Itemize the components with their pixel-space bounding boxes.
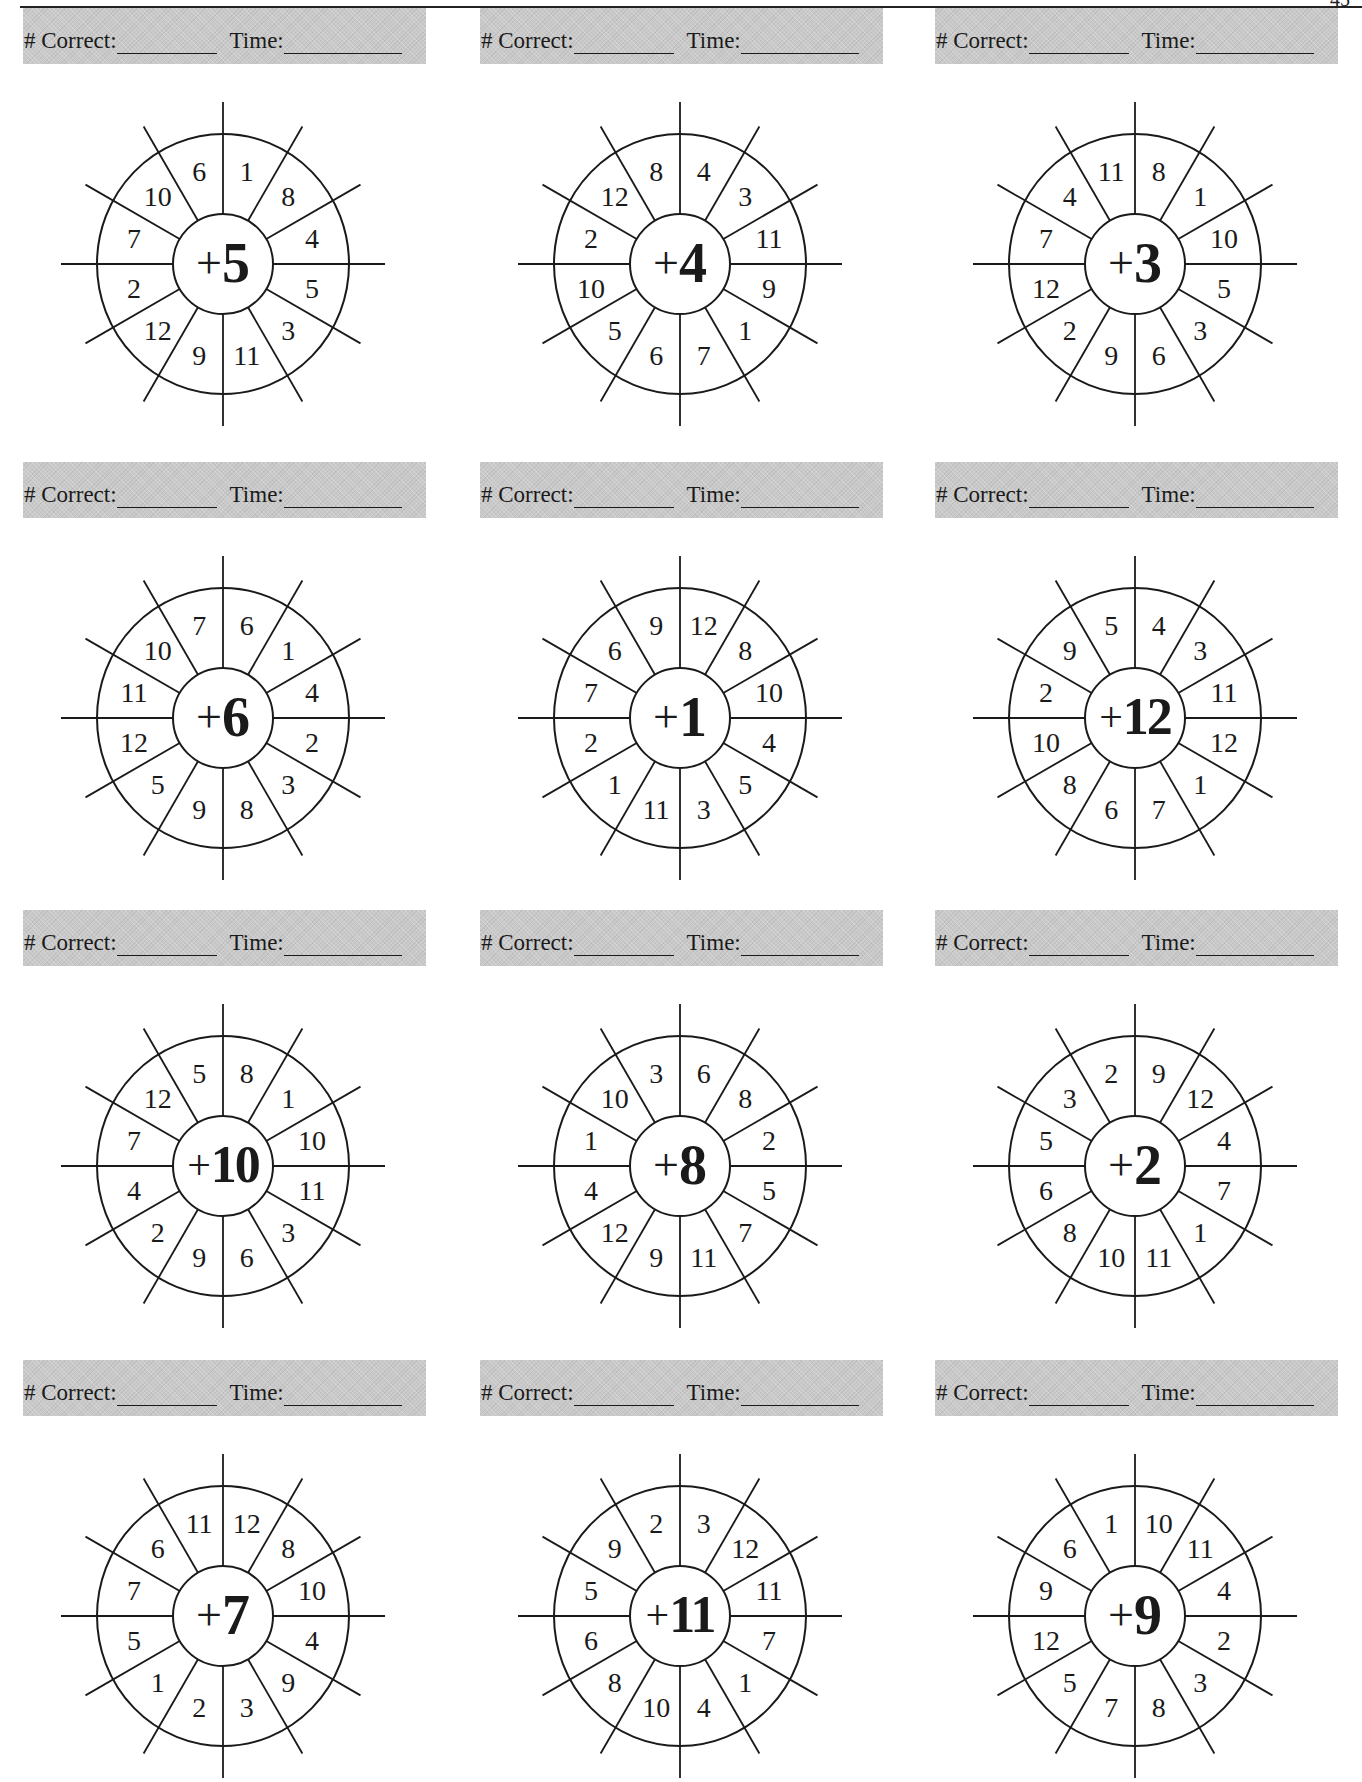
addition-wheel-card: # Correct:Time:184531191227106+5 bbox=[18, 8, 428, 458]
time-blank[interactable] bbox=[741, 935, 859, 956]
wheel-segment-number: 2 bbox=[584, 225, 598, 253]
wheel-segment-number: 9 bbox=[1104, 342, 1118, 370]
plus-sign: + bbox=[653, 240, 679, 286]
time-blank[interactable] bbox=[284, 935, 402, 956]
time-blank[interactable] bbox=[741, 1385, 859, 1406]
wheel-segment-number: 6 bbox=[608, 637, 622, 665]
wheel-segment-number: 11 bbox=[756, 1577, 783, 1605]
wheel-segment-number: 4 bbox=[1217, 1127, 1231, 1155]
wheel-segment-number: 10 bbox=[1097, 1244, 1125, 1272]
correct-count-blank[interactable] bbox=[117, 1385, 217, 1406]
addition-wheel-card: # Correct:Time:431112176810295+12 bbox=[930, 462, 1340, 912]
time-label: Time: bbox=[1142, 1380, 1196, 1406]
time-blank[interactable] bbox=[284, 1385, 402, 1406]
addition-wheel-card: # Correct:Time:431191765102128+4 bbox=[475, 8, 885, 458]
addend-value: 11 bbox=[669, 1589, 714, 1641]
time-blank[interactable] bbox=[1196, 33, 1314, 54]
wheel-segment-number: 1 bbox=[1193, 1219, 1207, 1247]
wheel-segment-number: 7 bbox=[127, 1577, 141, 1605]
plus-sign: + bbox=[1108, 240, 1134, 286]
wheel-center-addend: +3 bbox=[1108, 235, 1162, 291]
wheel-segment-number: 11 bbox=[1145, 1244, 1172, 1272]
wheel-segment-number: 8 bbox=[240, 796, 254, 824]
correct-count-blank[interactable] bbox=[574, 1385, 674, 1406]
wheel-center-addend: +4 bbox=[653, 235, 707, 291]
wheel-segment-number: 7 bbox=[762, 1627, 776, 1655]
correct-count-blank[interactable] bbox=[117, 487, 217, 508]
wheel-segment-number: 6 bbox=[1063, 1535, 1077, 1563]
wheel-segment-number: 7 bbox=[1039, 225, 1053, 253]
wheel-segment-number: 5 bbox=[608, 317, 622, 345]
wheel-segment-number: 6 bbox=[649, 342, 663, 370]
addition-wheel: 184531191227106+5 bbox=[18, 64, 428, 458]
wheel-segment-number: 3 bbox=[1193, 317, 1207, 345]
time-blank[interactable] bbox=[1196, 935, 1314, 956]
wheel-segment-number: 12 bbox=[601, 183, 629, 211]
addition-wheel: 312117141086592+11 bbox=[475, 1416, 885, 1782]
time-label: Time: bbox=[230, 1380, 284, 1406]
time-label: Time: bbox=[230, 482, 284, 508]
wheel-segment-number: 11 bbox=[1211, 679, 1238, 707]
wheel-segment-number: 8 bbox=[1063, 1219, 1077, 1247]
time-label: Time: bbox=[1142, 930, 1196, 956]
score-header-bar: # Correct:Time: bbox=[935, 462, 1338, 518]
wheel-segment-number: 9 bbox=[608, 1535, 622, 1563]
wheel-segment-number: 7 bbox=[127, 1127, 141, 1155]
wheel-segment-number: 1 bbox=[608, 771, 622, 799]
plus-sign: + bbox=[196, 1592, 222, 1638]
wheel-segment-number: 1 bbox=[151, 1669, 165, 1697]
addend-value: 3 bbox=[1134, 235, 1162, 291]
wheel-segment-number: 6 bbox=[240, 1244, 254, 1272]
wheel-segment-number: 5 bbox=[762, 1177, 776, 1205]
wheel-segment-number: 8 bbox=[240, 1060, 254, 1088]
correct-label: # Correct: bbox=[936, 28, 1029, 54]
correct-count-blank[interactable] bbox=[117, 33, 217, 54]
wheel-segment-number: 8 bbox=[1152, 158, 1166, 186]
wheel-segment-number: 10 bbox=[144, 183, 172, 211]
wheel-segment-number: 9 bbox=[649, 1244, 663, 1272]
correct-count-blank[interactable] bbox=[574, 33, 674, 54]
time-blank[interactable] bbox=[741, 487, 859, 508]
correct-count-blank[interactable] bbox=[1029, 33, 1129, 54]
time-blank[interactable] bbox=[1196, 1385, 1314, 1406]
wheel-segment-number: 6 bbox=[697, 1060, 711, 1088]
time-blank[interactable] bbox=[1196, 487, 1314, 508]
wheel-segment-number: 10 bbox=[755, 679, 783, 707]
correct-label: # Correct: bbox=[481, 482, 574, 508]
addition-wheel: 128104932157611+7 bbox=[18, 1416, 428, 1782]
wheel-segment-number: 10 bbox=[144, 637, 172, 665]
wheel-segment-number: 5 bbox=[127, 1627, 141, 1655]
addend-value: 4 bbox=[679, 235, 707, 291]
correct-count-blank[interactable] bbox=[574, 935, 674, 956]
plus-sign: + bbox=[1108, 1142, 1134, 1188]
addend-value: 1 bbox=[679, 689, 707, 745]
time-blank[interactable] bbox=[741, 33, 859, 54]
wheel-segment-number: 1 bbox=[738, 317, 752, 345]
time-blank[interactable] bbox=[284, 487, 402, 508]
correct-count-blank[interactable] bbox=[117, 935, 217, 956]
wheel-segment-number: 5 bbox=[192, 1060, 206, 1088]
wheel-segment-number: 5 bbox=[1063, 1669, 1077, 1697]
correct-count-blank[interactable] bbox=[574, 487, 674, 508]
wheel-segment-number: 2 bbox=[649, 1510, 663, 1538]
wheel-segment-number: 2 bbox=[127, 275, 141, 303]
correct-count-blank[interactable] bbox=[1029, 935, 1129, 956]
addition-wheel-card: # Correct:Time:128104932157611+7 bbox=[18, 1360, 428, 1782]
correct-count-blank[interactable] bbox=[1029, 487, 1129, 508]
time-label: Time: bbox=[1142, 482, 1196, 508]
wheel-segment-number: 5 bbox=[1217, 275, 1231, 303]
wheel-segment-number: 7 bbox=[584, 679, 598, 707]
time-blank[interactable] bbox=[284, 33, 402, 54]
wheel-segment-number: 9 bbox=[281, 1669, 295, 1697]
wheel-segment-number: 9 bbox=[649, 612, 663, 640]
wheel-segment-number: 8 bbox=[1152, 1694, 1166, 1722]
addend-value: 10 bbox=[211, 1139, 259, 1191]
wheel-segment-number: 12 bbox=[233, 1510, 261, 1538]
wheel-segment-number: 2 bbox=[584, 729, 598, 757]
correct-count-blank[interactable] bbox=[1029, 1385, 1129, 1406]
addition-wheel-card: # Correct:Time:682571191241103+8 bbox=[475, 910, 885, 1360]
score-header-bar: # Correct:Time: bbox=[23, 462, 426, 518]
score-header-bar: # Correct:Time: bbox=[935, 1360, 1338, 1416]
wheel-segment-number: 12 bbox=[690, 612, 718, 640]
plus-sign: + bbox=[187, 1144, 211, 1186]
